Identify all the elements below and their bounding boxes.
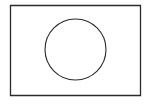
canvas-background — [0, 0, 153, 104]
figure-svg: Rectangle enclosing a circle Black-and-w… — [0, 0, 153, 104]
drawing-canvas: Rectangle enclosing a circle Black-and-w… — [0, 0, 153, 104]
